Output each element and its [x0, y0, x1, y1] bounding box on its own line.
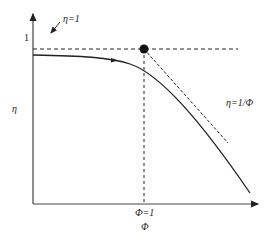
eta-one-pointer-icon	[51, 22, 60, 33]
efficiency-diagram: 1 η η=1 η=1/Φ Φ=1 Φ	[0, 0, 265, 238]
operating-point-dot	[140, 45, 149, 54]
x-tick-label: Φ=1	[135, 207, 154, 218]
asymptote-dashed-line	[144, 49, 228, 143]
x-axis-label: Φ	[141, 221, 149, 232]
curve-direction-arrow-icon	[111, 58, 118, 63]
y-tick-label: 1	[24, 32, 29, 43]
efficiency-curve	[33, 55, 250, 193]
y-axis-label: η	[12, 103, 17, 114]
eta-one-annotation: η=1	[63, 13, 80, 24]
asymptote-annotation: η=1/Φ	[226, 97, 253, 108]
